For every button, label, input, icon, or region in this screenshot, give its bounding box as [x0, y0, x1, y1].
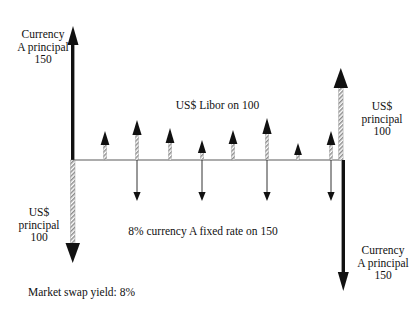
arrows-fixed-rate-payments [133, 160, 334, 201]
libor-arrow [327, 131, 336, 160]
label-usd-libor: US$ Libor on 100 [160, 99, 275, 112]
arrows-usd-libor-receipts [101, 118, 336, 160]
arrow-usd-principal-in-maturity [334, 68, 348, 160]
libor-arrow [132, 120, 141, 160]
fixed-rate-arrow [327, 160, 334, 201]
label-fixed-rate: 8% currency A fixed rate on 150 [118, 225, 288, 238]
libor-arrow [198, 140, 206, 160]
label-currency-a-principal-bottom: Currency A principal 150 [352, 244, 414, 282]
label-usd-principal-left: US$ principal 100 [8, 206, 70, 244]
fixed-rate-arrow [198, 160, 205, 201]
label-usd-principal-right: US$ principal 100 [352, 100, 412, 138]
label-market-swap-yield: Market swap yield: 8% [28, 286, 203, 299]
currency-swap-diagram: Currency A principal 150 US$ principal 1… [0, 0, 415, 321]
libor-arrow [262, 118, 271, 160]
fixed-rate-arrow [263, 160, 270, 201]
libor-arrow [166, 128, 175, 160]
fixed-rate-arrow [133, 160, 140, 201]
label-currency-a-principal-top: Currency A principal 150 [12, 28, 74, 66]
libor-arrow [101, 131, 110, 160]
libor-arrow [294, 143, 302, 160]
libor-arrow [229, 130, 238, 160]
arrow-currency-a-principal-out-maturity [338, 160, 349, 291]
